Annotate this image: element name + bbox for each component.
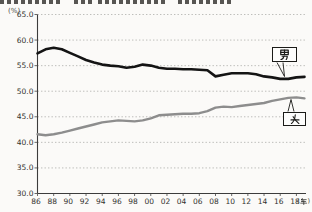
x-tick-label: 94 <box>94 197 108 206</box>
y-tick-label: 35.0 <box>7 163 34 172</box>
y-tick-label: 55.0 <box>7 61 34 70</box>
x-tick-label: 14 <box>256 197 270 206</box>
x-axis-unit-label: ( ) <box>297 197 310 205</box>
x-tick-label: 96 <box>110 197 124 206</box>
female-series-label-box <box>283 112 306 126</box>
x-tick-label: 08 <box>207 197 221 206</box>
x-tick-label: 02 <box>158 197 172 206</box>
female-callout-tail <box>288 100 294 112</box>
year-kanji-icon <box>300 198 307 205</box>
female-line <box>38 97 305 135</box>
male-series-label-box <box>272 47 297 62</box>
male-line <box>38 48 305 79</box>
x-tick-label: 12 <box>239 197 253 206</box>
female-kanji-icon <box>290 114 300 124</box>
x-tick-label: 10 <box>223 197 237 206</box>
chart-figure: (%) 65.060.055.050.045.040.035.030.0 868… <box>0 0 312 212</box>
x-tick-label: 88 <box>45 197 59 206</box>
y-tick-label: 50.0 <box>7 87 34 96</box>
y-tick-label: 65.0 <box>7 10 34 19</box>
plot-area <box>0 0 312 212</box>
male-kanji-icon <box>279 49 290 60</box>
x-tick-label: 06 <box>191 197 205 206</box>
x-tick-label: 92 <box>78 197 92 206</box>
y-tick-label: 45.0 <box>7 112 34 121</box>
x-tick-label: 00 <box>142 197 156 206</box>
y-tick-label: 60.0 <box>7 36 34 45</box>
x-tick-label: 98 <box>126 197 140 206</box>
x-unit-paren-close: ) <box>308 197 311 205</box>
x-tick-label: 16 <box>272 197 286 206</box>
x-tick-label: 86 <box>29 197 43 206</box>
male-callout-tail <box>277 63 285 77</box>
x-tick-label: 90 <box>61 197 75 206</box>
y-tick-label: 40.0 <box>7 138 34 147</box>
x-tick-label: 04 <box>175 197 189 206</box>
